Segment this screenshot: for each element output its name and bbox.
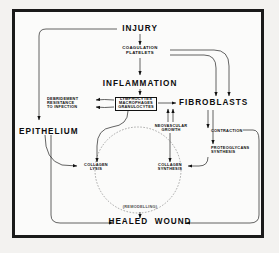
node-inflammation: INFLAMMATION (103, 80, 178, 89)
node-collagen-lysis: COLLAGEN LYSIS (84, 163, 108, 171)
node-inflammatory-cells: LYMPHOCYTES MACROPHAGES GRANULOCYTES (118, 97, 154, 109)
node-proteoglycans-synthesis: PROTEOGLYCANS SYNTHESIS (211, 146, 249, 154)
node-contraction: CONTRACTION (211, 129, 243, 133)
node-epithelium: EPITHELIUM (19, 128, 79, 137)
node-coagulation-platelets: COAGULATION PLATELETS (122, 46, 158, 55)
node-collagen-synthesis: COLLAGEN SYNTHESIS (158, 163, 182, 171)
node-remodelling: (REMODELLING) (123, 205, 158, 209)
node-neovascular-growth: NEOVASCULAR GROWTH (155, 124, 188, 132)
node-fibroblasts: FIBROBLASTS (179, 99, 248, 108)
node-healed-wound: HEALED WOUND (108, 218, 191, 227)
node-debridement: DEBRIDEMENT RESISTANCE TO INFECTION (47, 97, 78, 109)
screenshot-mat: INJURY COAGULATION PLATELETS INFLAMMATIO… (0, 0, 279, 253)
node-injury: INJURY (122, 25, 158, 34)
